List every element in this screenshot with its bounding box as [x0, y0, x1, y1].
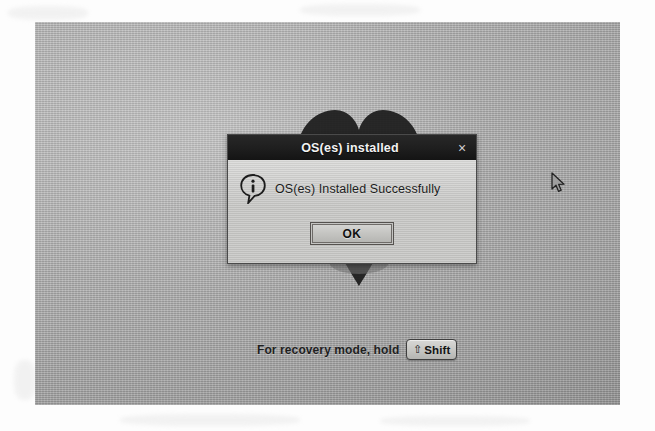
- dialog-title: OS(es) installed: [228, 141, 450, 155]
- paper-smudge: [300, 4, 420, 16]
- recovery-hint-text: For recovery mode, hold: [257, 343, 399, 357]
- paper-smudge: [8, 6, 88, 20]
- shift-keycap-label: Shift: [424, 344, 450, 356]
- dialog-button-row: OK: [228, 222, 476, 263]
- paper-smudge: [14, 360, 36, 400]
- shift-arrow-icon: ⇧: [413, 344, 422, 355]
- installer-screen: OS(es) installed × OS(es) Installed Succ…: [35, 22, 620, 405]
- dialog-body: OS(es) Installed Successfully OK: [228, 160, 476, 263]
- ok-button-label: OK: [312, 224, 392, 243]
- ok-button[interactable]: OK: [310, 222, 394, 245]
- shift-keycap: ⇧ Shift: [406, 339, 457, 360]
- photograph-of-screen: OS(es) installed × OS(es) Installed Succ…: [0, 0, 655, 431]
- recovery-mode-hint: For recovery mode, hold ⇧ Shift: [257, 339, 457, 360]
- paper-smudge: [120, 414, 300, 426]
- info-icon: [240, 174, 266, 204]
- close-icon[interactable]: ×: [450, 135, 474, 160]
- dialog-titlebar[interactable]: OS(es) installed ×: [228, 135, 476, 160]
- dialog-message: OS(es) Installed Successfully: [275, 182, 440, 196]
- os-installed-dialog: OS(es) installed × OS(es) Installed Succ…: [227, 134, 477, 264]
- dialog-message-row: OS(es) Installed Successfully: [228, 160, 476, 204]
- paper-smudge: [380, 416, 530, 426]
- mouse-pointer-icon: [551, 172, 567, 194]
